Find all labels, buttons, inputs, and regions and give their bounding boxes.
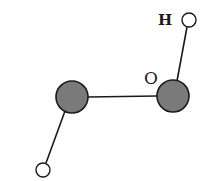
bond-o1-o2 <box>88 96 157 97</box>
hydrogen-atom-bottom <box>36 163 50 177</box>
oxygen-label: O <box>144 68 158 88</box>
molecule-diagram: H O <box>0 0 222 181</box>
bond-o2-h2 <box>46 111 65 163</box>
bond-h1-o1 <box>177 27 187 81</box>
oxygen-atom-right <box>157 80 189 112</box>
oxygen-atom-left <box>56 81 88 113</box>
hydrogen-label: H <box>158 11 172 29</box>
hydrogen-atom-top <box>182 13 196 27</box>
